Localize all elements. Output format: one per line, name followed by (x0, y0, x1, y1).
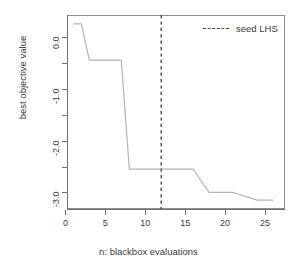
y-tick-label: -1.0 (53, 88, 62, 104)
x-tick (145, 210, 146, 215)
y-axis-title: best objective value (17, 8, 28, 148)
x-tick (65, 210, 66, 215)
legend: seed LHS (203, 23, 278, 34)
chart-figure: 0.0-1.0-2.0-3.0 0510152025 seed LHS n: b… (0, 0, 297, 275)
x-tick-label: 5 (93, 218, 117, 228)
x-tick (265, 210, 266, 215)
x-tick-label: 10 (133, 218, 157, 228)
x-tick-label: 20 (213, 218, 237, 228)
y-tick-label: -3.0 (53, 192, 62, 208)
x-tick-label: 25 (253, 218, 277, 228)
x-axis-title: n: blackbox evaluations (0, 246, 297, 257)
x-tick (185, 210, 186, 215)
legend-label-seed-lhs: seed LHS (236, 23, 278, 34)
best-objective-value-line (73, 24, 273, 200)
x-tick (105, 210, 106, 215)
x-tick (225, 210, 226, 215)
x-axis-line (67, 209, 285, 210)
data-line-svg (67, 15, 285, 209)
x-tick-label: 15 (173, 218, 197, 228)
x-tick-label: 0 (53, 218, 77, 228)
y-tick-label: 0.0 (53, 36, 62, 49)
legend-dashed-line-icon (203, 28, 229, 29)
y-tick-label: -2.0 (53, 140, 62, 156)
plot-area (67, 15, 285, 209)
